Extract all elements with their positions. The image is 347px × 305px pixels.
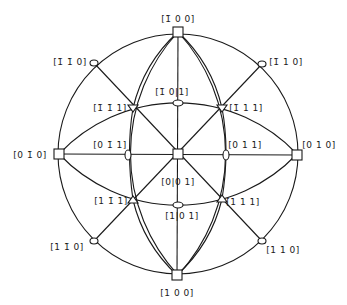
pole-label-p1m11: [1 1̄ 1] [94,196,127,206]
pole-label-m1m11: [1̄ 1̄ 1] [93,103,126,113]
stereographic-projection: [1̄ 0 0][1 0 0][0 1̄ 0][0 1 0][0|0 1][1̄… [0,0,347,305]
pole-marker-p101 [173,202,183,208]
pole-marker-p110 [258,238,266,244]
pole-label-p100: [1 0 0] [160,288,193,298]
pole-label-m110: [1̄ 1 0] [269,57,302,67]
pole-label-m111: [1̄ 1 1] [229,103,262,113]
pole-marker-p010 [292,150,302,160]
pole-label-p110: [1 1 0] [266,245,299,255]
pole-label-m100: [1̄ 0 0] [161,14,194,24]
pole-label-p011: [0 1 1] [228,140,261,150]
pole-marker-p0m11 [125,150,131,160]
pole-label-p010: [0 1 0] [302,140,335,150]
pole-marker-m100 [173,27,183,37]
pole-marker-m010 [54,149,64,159]
pole-label-p1m10: [1 1̄ 0] [50,242,83,252]
pole-marker-m101 [173,100,183,106]
pole-marker-p1m10 [90,238,98,244]
pole-label-p001: [0|0 1] [161,177,195,187]
pole-label-m010: [0 1̄ 0] [13,150,46,160]
pole-label-p101: [1|0 1] [165,211,199,221]
pole-marker-p100 [172,270,182,280]
pole-label-p111: [1 1 1] [226,197,259,207]
pole-label-p0m11: [0 1̄ 1] [93,140,126,150]
pole-marker-m1m10 [90,60,98,66]
pole-marker-m110 [258,61,266,67]
pole-marker-m111 [217,105,227,112]
great-circle-right-vertical [178,32,226,275]
pole-marker-p011 [223,150,229,160]
great-circle-left-vertical [130,32,178,275]
pole-marker-p001 [173,149,183,159]
pole-label-m101: [1̄ 0|1] [155,87,189,97]
pole-label-m1m10: [1̄ 1̄ 0] [53,57,86,67]
